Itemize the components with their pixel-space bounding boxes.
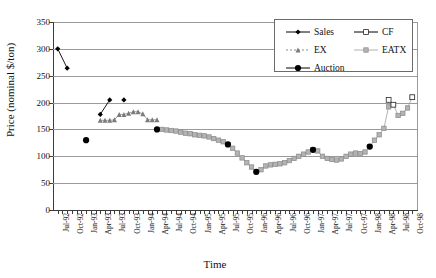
data-point-square-filled-gray: [334, 158, 338, 162]
chart-figure: Price (nominal $/ton) 350300250200150100…: [0, 0, 436, 278]
data-point-square-open-black: [410, 95, 415, 100]
data-point-square-filled-gray: [353, 151, 357, 155]
data-point-square-filled-gray: [372, 138, 376, 142]
x-tick-label: Jul-92: [62, 213, 72, 253]
data-point-square-filled-gray: [320, 154, 324, 158]
data-point-square-filled-gray: [405, 106, 409, 110]
data-point-diamond-filled-black: [98, 112, 103, 117]
x-tick-label: Apr-97: [331, 213, 341, 253]
legend-label: EX: [314, 43, 327, 57]
data-point-square-filled-gray: [268, 163, 272, 167]
y-tick-label: 200: [20, 99, 50, 107]
series-sales: [55, 46, 126, 117]
data-point-circle-filled-black: [367, 144, 373, 150]
series-line-segment: [100, 100, 109, 115]
series-auction: [83, 126, 373, 175]
data-point-square-filled-gray: [164, 128, 168, 132]
legend-label: Auction: [314, 61, 345, 75]
data-point-square-filled-gray: [183, 131, 187, 135]
data-point-square-filled-gray: [282, 161, 286, 165]
data-point-square-filled-gray: [249, 165, 253, 169]
y-tick-label: 350: [20, 18, 50, 26]
x-tick-label: Jul-95: [232, 213, 242, 253]
data-point-square-filled-gray: [264, 164, 268, 168]
data-point-square-filled-gray: [230, 146, 234, 150]
data-point-square-filled-gray: [221, 140, 225, 144]
data-point-square-filled-gray: [278, 162, 282, 166]
plot-right-border: [417, 22, 418, 210]
legend-symbol-circle-filled-black: [285, 60, 311, 76]
data-point-square-filled-gray: [197, 133, 201, 137]
legend-label: EATX: [382, 43, 406, 57]
data-point-square-filled-gray: [235, 151, 239, 155]
data-point-triangle-filled-gray: [140, 111, 145, 116]
legend-label: Sales: [314, 25, 334, 39]
data-point-square-filled-gray: [306, 150, 310, 154]
data-point-diamond-filled-black: [107, 97, 112, 102]
x-tick-label: Jan-95: [204, 213, 214, 253]
data-point-diamond-filled-black: [295, 29, 300, 34]
data-point-square-filled-gray: [382, 126, 386, 130]
x-tick-label: Oct-93: [133, 213, 143, 253]
y-tick-label: 300: [20, 45, 50, 53]
x-tick-label: Jan-96: [260, 213, 270, 253]
data-point-square-filled-gray: [386, 105, 390, 109]
y-tick-label: 150: [20, 125, 50, 133]
y-axis-title: Price (nominal $/ton): [4, 20, 16, 160]
y-axis-tick-labels: 350300250200150100500: [18, 0, 50, 278]
data-point-circle-filled-black: [253, 169, 259, 175]
data-point-square-filled-gray: [363, 150, 367, 154]
y-tick-label: 250: [20, 72, 50, 80]
x-tick-label: Jul-98: [402, 213, 412, 253]
x-tick-label: Jul-96: [289, 213, 299, 253]
x-tick-label: Jan-97: [317, 213, 327, 253]
x-tick-label: Oct-94: [189, 213, 199, 253]
data-point-square-filled-gray: [292, 156, 296, 160]
data-point-circle-filled-black: [154, 126, 160, 132]
y-tick-label: 100: [20, 152, 50, 160]
legend-symbol-diamond-filled-black: [285, 24, 311, 40]
data-point-square-filled-gray: [349, 152, 353, 156]
data-point-square-filled-gray: [178, 130, 182, 134]
data-point-square-filled-gray: [396, 113, 400, 117]
x-tick-label: Apr-95: [218, 213, 228, 253]
data-point-square-open-black: [391, 102, 396, 107]
x-tick-label: Jan-94: [147, 213, 157, 253]
data-point-square-filled-gray: [344, 154, 348, 158]
x-tick-label: Jul-94: [175, 213, 185, 253]
data-point-square-filled-gray: [240, 156, 244, 160]
data-point-square-filled-gray: [259, 168, 263, 172]
data-point-square-filled-gray: [330, 157, 334, 161]
data-point-square-filled-gray: [202, 134, 206, 138]
data-point-square-filled-gray: [169, 128, 173, 132]
y-tick-mark: [49, 210, 53, 211]
data-point-square-filled-gray: [193, 133, 197, 137]
data-point-square-filled-gray: [212, 136, 216, 140]
x-tick-label: Oct-95: [246, 213, 256, 253]
data-point-square-filled-gray: [245, 161, 249, 165]
data-point-square-filled-gray: [297, 154, 301, 158]
legend-symbol-triangle-filled-gray: [285, 42, 311, 58]
data-point-diamond-filled-black: [65, 66, 70, 71]
data-point-square-filled-gray: [160, 127, 164, 131]
data-point-square-filled-gray: [174, 129, 178, 133]
x-tick-label: Jul-97: [345, 213, 355, 253]
data-point-square-filled-gray: [325, 156, 329, 160]
data-point-square-filled-gray: [377, 133, 381, 137]
x-tick-label: Oct-97: [360, 213, 370, 253]
x-axis-tick-labels: Jul-92Oct-92Jan-93Apr-93Jul-93Oct-93Jan-…: [53, 213, 423, 257]
x-axis-line: [53, 210, 418, 211]
data-point-circle-filled-black: [310, 147, 316, 153]
legend-label: CF: [382, 25, 394, 39]
data-point-circle-filled-black: [295, 65, 301, 71]
series-eatx: [160, 95, 415, 174]
data-point-square-filled-gray: [188, 132, 192, 136]
x-tick-label: Jan-98: [374, 213, 384, 253]
data-point-square-filled-gray: [301, 152, 305, 156]
data-point-circle-filled-black: [225, 141, 231, 147]
x-tick-label: Apr-96: [274, 213, 284, 253]
x-tick-label: Apr-94: [161, 213, 171, 253]
x-tick-label: Oct-96: [303, 213, 313, 253]
x-tick-label: Apr-93: [104, 213, 114, 253]
y-tick-label: 50: [20, 179, 50, 187]
